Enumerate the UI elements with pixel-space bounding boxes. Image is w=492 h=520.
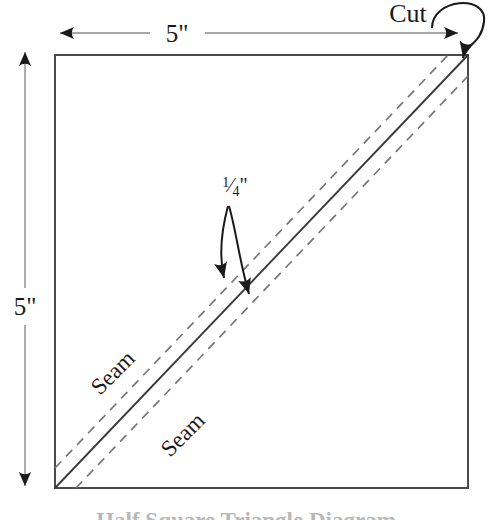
height-dimension: 5" xyxy=(14,52,37,486)
cut-arrow-path xyxy=(432,3,484,58)
height-dimension-label: 5" xyxy=(14,293,37,320)
quilting-diagram: 5" 5" Cut 1⁄4" xyxy=(0,0,492,520)
width-dimension-label: 5" xyxy=(166,20,189,47)
diagram-canvas: 5" 5" Cut 1⁄4" xyxy=(0,0,492,520)
cut-label: Cut xyxy=(389,0,427,28)
cut-arrow xyxy=(432,3,484,58)
seam-allowance-denominator: 4 xyxy=(233,184,240,199)
figure-caption: Half Square Triangle Diagram xyxy=(0,508,492,520)
seam-allowance-numerator: 1 xyxy=(222,175,229,190)
seam-allowance-unit: " xyxy=(240,174,248,196)
